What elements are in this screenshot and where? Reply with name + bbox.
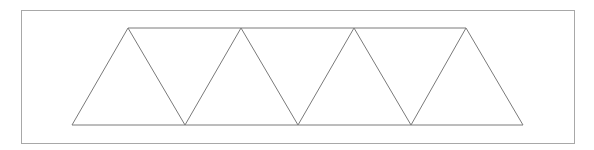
diagram-frame — [22, 11, 575, 144]
diagonal-member — [466, 28, 523, 125]
truss-lines — [72, 28, 523, 125]
diagonal-member — [298, 28, 354, 125]
truss-diagram — [0, 0, 594, 150]
diagonal-member — [185, 28, 241, 125]
diagonal-member — [241, 28, 298, 125]
diagonal-member — [72, 28, 128, 125]
diagonal-member — [411, 28, 466, 125]
diagonal-member — [128, 28, 185, 125]
diagonal-member — [354, 28, 411, 125]
